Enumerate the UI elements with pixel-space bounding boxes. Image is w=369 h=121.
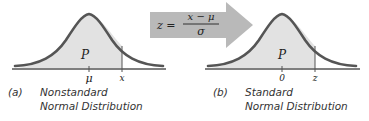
formula-lhs: z = <box>156 19 176 32</box>
formula-numerator: x − μ <box>188 11 215 22</box>
z-tick-label: z <box>312 73 318 83</box>
area-label-a: P <box>80 48 90 62</box>
panel-nonstandard: P μ x (a) Nonstandard Normal Distributio… <box>8 14 166 112</box>
x-tick-label: x <box>119 73 124 83</box>
caption-letter-a: (a) <box>8 86 23 98</box>
caption-letter-b: (b) <box>213 86 228 98</box>
mu-tick-label: μ <box>85 72 92 85</box>
caption-title-b: Standard <box>245 86 293 98</box>
normal-distribution-diagram: P μ x (a) Nonstandard Normal Distributio… <box>0 0 369 121</box>
transform-arrow: z = x − μ σ <box>150 2 253 48</box>
area-label-b: P <box>277 48 287 62</box>
caption-subtitle-a: Normal Distribution <box>40 100 143 112</box>
formula-denominator: σ <box>197 25 205 38</box>
caption-subtitle-b: Normal Distribution <box>245 100 348 112</box>
zero-tick-label: 0 <box>279 73 285 83</box>
shaded-area-a <box>15 14 122 68</box>
caption-title-a: Nonstandard <box>40 86 108 98</box>
